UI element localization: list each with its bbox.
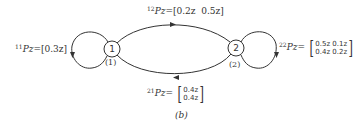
- matrix-left-bracket: [: [177, 84, 181, 103]
- edge-2-2-name: Pz: [287, 42, 298, 52]
- edge-2-1-name: Pz: [155, 88, 166, 98]
- node-2-sublabel: (2): [229, 60, 240, 69]
- edge-2-1-label: 21Pz= [ 0.4z 0.4z ]: [147, 84, 206, 103]
- matrix-left-bracket: [: [309, 38, 313, 57]
- edge-2-2-arrow: [241, 32, 276, 68]
- edge-1-2-arrow: [117, 25, 230, 43]
- matrix-row-1: 0.4z: [183, 94, 198, 102]
- diagram-canvas: [0, 0, 364, 127]
- edge-1-2-name: Pz: [155, 6, 166, 16]
- edge-2-1-superscript: 21: [147, 87, 155, 94]
- edge-2-2-matrix: [ 0.5z 0.1z 0.4z 0.2z ]: [308, 38, 355, 57]
- matrix-right-bracket: ]: [200, 84, 204, 103]
- edge-1-2-eq: =: [165, 6, 173, 16]
- edge-2-1-matrix: [ 0.4z 0.4z ]: [176, 84, 206, 103]
- matrix-row-0: 0.4z: [183, 86, 198, 94]
- matrix-right-bracket: ]: [349, 38, 353, 57]
- edge-1-1-arrowhead: [70, 52, 75, 58]
- edge-2-2-eq: =: [297, 42, 305, 52]
- edge-1-1-label: 11Pz=[0.3z]: [15, 44, 67, 54]
- edge-1-1-eq: =: [33, 44, 41, 54]
- edge-2-2-label: 22Pz= [ 0.5z 0.1z 0.4z 0.2z ]: [279, 38, 355, 57]
- edge-2-2-superscript: 22: [279, 41, 287, 48]
- edge-1-2-superscript: 12: [147, 5, 155, 12]
- edge-1-2-arrowhead: [170, 22, 176, 27]
- matrix-row-0: 0.5z 0.1z: [315, 40, 347, 48]
- edge-1-1-arrow: [72, 32, 108, 68]
- edge-2-1-eq: =: [165, 88, 173, 98]
- edge-2-1-arrowhead: [173, 75, 179, 80]
- edge-1-1-name: Pz: [23, 44, 34, 54]
- edge-2-1-arrow: [117, 54, 231, 74]
- edge-1-1-value: [0.3z]: [41, 44, 67, 54]
- edge-1-1-superscript: 11: [15, 43, 23, 50]
- edge-1-2-value: [0.2z 0.5z]: [173, 6, 224, 16]
- matrix-row-1: 0.4z 0.2z: [315, 48, 347, 56]
- node-1-label: 1: [104, 41, 120, 57]
- node-1-sublabel: (1): [105, 58, 116, 67]
- figure-caption: (b): [175, 110, 188, 120]
- node-2-label: 2: [228, 40, 244, 56]
- edge-1-2-label: 12Pz=[0.2z 0.5z]: [147, 6, 224, 16]
